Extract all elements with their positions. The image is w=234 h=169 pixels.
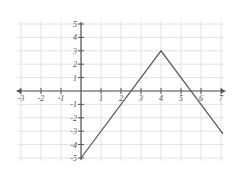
- x-tick-label: 1: [99, 94, 103, 103]
- y-tick-label: -3: [70, 127, 77, 136]
- y-tick-label: -4: [70, 141, 77, 150]
- x-tick-label: -1: [58, 94, 65, 103]
- x-tick-labels: -3-2-11234567: [18, 94, 224, 103]
- y-tick-label: -1: [70, 100, 77, 109]
- y-tick-label: 4: [73, 33, 77, 42]
- y-tick-label: 1: [73, 74, 77, 83]
- x-tick-label: 5: [179, 94, 183, 103]
- y-tick-label: 5: [73, 20, 77, 29]
- x-tick-label: -3: [18, 94, 25, 103]
- y-tick-label: -2: [70, 114, 77, 123]
- x-tick-label: 3: [138, 94, 143, 103]
- y-tick-label: -5: [70, 154, 77, 163]
- x-axis-arrow-left-icon: [16, 89, 21, 94]
- x-tick-label: 4: [159, 94, 163, 103]
- x-tick-label: -2: [38, 94, 45, 103]
- chart: -3-2-11234567 54321-1-2-3-4-5: [0, 0, 234, 169]
- y-tick-label: 3: [72, 47, 77, 56]
- x-axis-arrow-icon: [221, 89, 226, 94]
- x-tick-label: 7: [219, 94, 224, 103]
- y-tick-label: 2: [73, 60, 77, 69]
